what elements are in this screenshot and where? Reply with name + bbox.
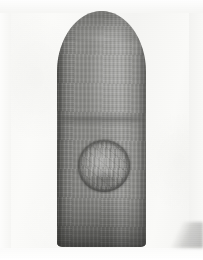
- finger: [57, 11, 146, 247]
- clinical-photograph: Close-up grayscale photograph of a finge…: [0, 0, 203, 260]
- backdrop-shadow-wedge: [161, 222, 203, 248]
- backdrop-left-strip: [0, 0, 11, 260]
- finger-base-shading: [57, 195, 146, 247]
- backdrop-bottom-band: [0, 248, 203, 260]
- lesion-inferior-shadow: [82, 175, 126, 191]
- finger-left-rim-shadow: [57, 11, 67, 247]
- finger-right-rim-shadow: [137, 11, 146, 247]
- circular-lesion: [78, 140, 130, 192]
- backdrop-right-strip: [189, 0, 203, 260]
- interphalangeal-crease: [59, 114, 144, 123]
- fingertip-dome-shading: [57, 11, 146, 41]
